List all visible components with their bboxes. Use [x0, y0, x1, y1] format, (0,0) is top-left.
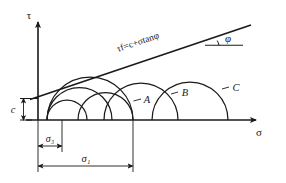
mohr-circle-B [104, 83, 178, 120]
mohr-coulomb-figure: τ σ φ [0, 0, 286, 183]
circle-B-label: B [182, 87, 189, 98]
sigma3-label: σ₃ [46, 133, 55, 144]
phi-angle-label: φ [225, 32, 231, 44]
circle-label-B-group: B [171, 87, 189, 98]
envelope-equation-group: τf=c+σtanφ [115, 30, 160, 54]
cohesion-label: c [11, 104, 16, 115]
axis-group: τ σ [26, 9, 262, 138]
mohr-circles-group [47, 77, 228, 120]
phi-arc [217, 41, 219, 46]
envelope-equation-label: τf=c+σtanφ [115, 30, 160, 54]
mohr-diagram-svg: τ σ φ [0, 0, 286, 183]
circle-C-leader [222, 87, 229, 89]
circle-C-label: C [232, 82, 240, 93]
circle-label-A-group: A [134, 94, 151, 105]
circle-B-leader [171, 92, 178, 94]
circle-A-leader [134, 99, 142, 101]
x-axis-label: σ [256, 126, 262, 138]
circle-A-label: A [143, 94, 151, 105]
cohesion-dimension-group [20, 99, 38, 121]
y-axis-label: τ [27, 9, 32, 21]
mohr-circle-C [152, 82, 228, 120]
circle-label-C-group: C [222, 82, 240, 93]
mohr-circle-A [47, 77, 133, 120]
sigma1-label: σ₁ [82, 153, 91, 164]
mohr-circle-1 [47, 100, 87, 120]
